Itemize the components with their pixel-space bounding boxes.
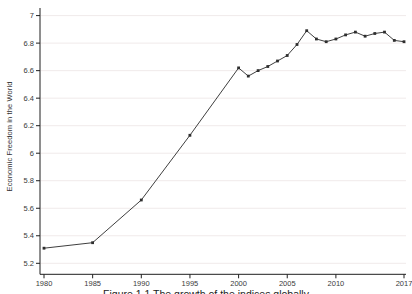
y-tick-label-6.4: 6.4 <box>24 94 34 103</box>
figure-caption: Figure 1.1 The growth of the indices glo… <box>103 288 309 294</box>
x-tick-label-2017: 2017 <box>396 279 412 288</box>
y-tick-label-6: 6 <box>30 149 34 158</box>
trend-line <box>44 31 404 249</box>
data-point-2016 <box>393 39 396 42</box>
data-point-2000 <box>237 67 240 70</box>
y-tick-label-7: 7 <box>30 11 34 20</box>
y-tick-label-5.2: 5.2 <box>24 259 34 268</box>
data-point-2010 <box>335 38 338 41</box>
data-point-2003 <box>266 65 269 68</box>
data-point-2001 <box>247 75 250 78</box>
x-tick-label-1985: 1985 <box>84 279 101 288</box>
chart-canvas: 5.25.45.65.866.26.46.66.8719801985199019… <box>0 0 412 294</box>
x-tick-label-1995: 1995 <box>182 279 199 288</box>
data-point-1990 <box>140 199 143 202</box>
data-point-2008 <box>315 38 318 41</box>
y-tick-label-5.6: 5.6 <box>24 204 34 213</box>
data-point-2012 <box>354 31 357 34</box>
data-point-2014 <box>373 32 376 35</box>
data-point-2002 <box>257 69 260 72</box>
data-point-2007 <box>305 29 308 32</box>
data-point-2011 <box>344 34 347 37</box>
data-point-2013 <box>364 35 367 38</box>
y-tick-label-5.4: 5.4 <box>24 231 34 240</box>
data-point-1980 <box>43 247 46 250</box>
data-point-2017 <box>403 40 406 43</box>
x-tick-label-1980: 1980 <box>36 279 53 288</box>
data-point-2004 <box>276 60 279 63</box>
x-tick-label-2010: 2010 <box>328 279 345 288</box>
data-point-2009 <box>325 40 328 43</box>
y-tick-label-6.8: 6.8 <box>24 39 34 48</box>
data-point-2006 <box>296 43 299 46</box>
y-tick-label-5.8: 5.8 <box>24 176 34 185</box>
y-tick-label-6.2: 6.2 <box>24 121 34 130</box>
x-tick-label-2005: 2005 <box>279 279 296 288</box>
data-point-2015 <box>383 31 386 34</box>
chart-figure: 5.25.45.65.866.26.46.66.8719801985199019… <box>0 0 412 294</box>
data-point-2005 <box>286 54 289 57</box>
x-tick-label-2000: 2000 <box>230 279 247 288</box>
data-point-1995 <box>189 134 192 137</box>
y-axis-title: Economic Freedom in the World <box>5 81 14 193</box>
data-point-1985 <box>91 241 94 244</box>
x-tick-label-1990: 1990 <box>133 279 150 288</box>
y-tick-label-6.6: 6.6 <box>24 66 34 75</box>
